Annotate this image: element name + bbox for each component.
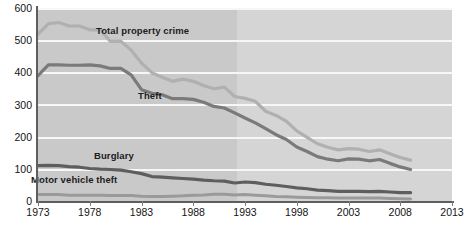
x-tick-label-2008: 2008 — [378, 207, 422, 218]
x-tick-label-1983: 1983 — [120, 207, 164, 218]
x-tick-label-1973: 1973 — [16, 207, 60, 218]
x-tick-mark-1978 — [90, 201, 91, 206]
x-tick-mark-1998 — [297, 201, 298, 206]
x-tick-mark-1988 — [193, 201, 194, 206]
x-tick-mark-1993 — [245, 201, 246, 206]
x-tick-mark-1983 — [142, 201, 143, 206]
property-crime-line-chart: Total property crime Theft Burglary Moto… — [0, 0, 464, 229]
x-tick-label-1998: 1998 — [275, 207, 319, 218]
x-tick-label-1978: 1978 — [68, 207, 112, 218]
x-tick-mark-2003 — [349, 201, 350, 206]
x-tick-label-1988: 1988 — [171, 207, 215, 218]
x-tick-label-2013: 2013 — [430, 207, 464, 218]
x-tick-mark-2013 — [452, 201, 453, 206]
x-tick-mark-1973 — [38, 201, 39, 206]
x-tick-mark-2008 — [400, 201, 401, 206]
x-tick-label-1993: 1993 — [223, 207, 267, 218]
x-axis-tick-labels: 197319781983198819931998200320082013 — [0, 0, 464, 229]
x-tick-label-2003: 2003 — [327, 207, 371, 218]
